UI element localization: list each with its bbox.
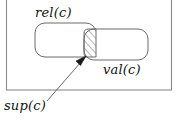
diagram-canvas: rel(c) val(c) sup(c) <box>0 0 179 121</box>
sup-pointer-line <box>47 59 84 102</box>
val-set-label: val(c) <box>103 63 141 76</box>
rel-set-label: rel(c) <box>35 6 72 19</box>
sup-annotation-label: sup(c) <box>4 99 46 112</box>
